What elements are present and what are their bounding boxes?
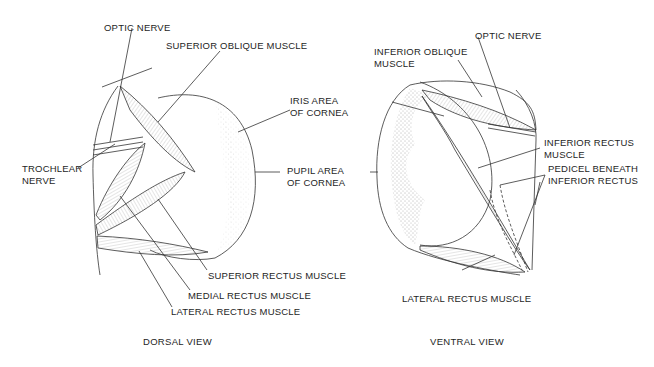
dorsal-eye-drawing xyxy=(78,28,290,307)
label-pedicel-beneath-inferior-rectus: PEDICEL BENEATH INFERIOR RECTUS xyxy=(548,163,638,187)
label-iris-area-of-cornea: IRIS AREA OF CORNEA xyxy=(290,95,348,119)
label-pupil-area-of-cornea: PUPIL AREA OF CORNEA xyxy=(287,165,345,189)
label-dorsal-optic-nerve: OPTIC NERVE xyxy=(104,22,170,34)
eye-muscle-diagram: OPTIC NERVE SUPERIOR OBLIQUE MUSCLE TROC… xyxy=(0,0,654,367)
label-superior-oblique-muscle: SUPERIOR OBLIQUE MUSCLE xyxy=(166,40,307,52)
label-inferior-rectus-muscle: INFERIOR RECTUS MUSCLE xyxy=(544,137,634,161)
label-inferior-oblique-muscle: INFERIOR OBLIQUE MUSCLE xyxy=(374,46,467,70)
caption-dorsal-view: DORSAL VIEW xyxy=(143,336,212,347)
caption-ventral-view: VENTRAL VIEW xyxy=(430,336,504,347)
label-superior-rectus-muscle: SUPERIOR RECTUS MUSCLE xyxy=(208,270,346,282)
label-ventral-lateral-rectus-muscle: LATERAL RECTUS MUSCLE xyxy=(402,293,531,305)
label-trochlear-nerve: TROCHLEAR NERVE xyxy=(22,163,82,187)
label-dorsal-lateral-rectus-muscle: LATERAL RECTUS MUSCLE xyxy=(171,306,300,318)
label-medial-rectus-muscle: MEDIAL RECTUS MUSCLE xyxy=(188,290,311,302)
ventral-eye-drawing xyxy=(370,37,545,275)
label-ventral-optic-nerve: OPTIC NERVE xyxy=(475,30,541,42)
